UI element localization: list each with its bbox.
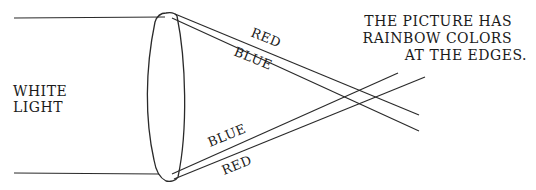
incoming-ray-top (14, 17, 165, 18)
caption-line1: THE PICTURE HAS (364, 13, 512, 29)
caption-line2: RAINBOW COLORS (363, 30, 512, 46)
chromatic-aberration-diagram: WHITE LIGHT RED BLUE BLUE RED THE PICTUR… (0, 0, 536, 190)
bottom-red-label: RED (220, 152, 255, 178)
incoming-ray-bottom (14, 173, 159, 174)
top-blue-label: BLUE (232, 44, 275, 73)
bottom-blue-label: BLUE (206, 121, 249, 150)
bottom-ray-red (174, 77, 425, 179)
caption-line3: AT THE EDGES. (404, 47, 527, 63)
white-light-label: WHITE (13, 83, 67, 99)
bottom-ray-blue (172, 73, 398, 174)
convex-lens (147, 13, 184, 182)
white-light-label-line2: LIGHT (13, 99, 63, 115)
